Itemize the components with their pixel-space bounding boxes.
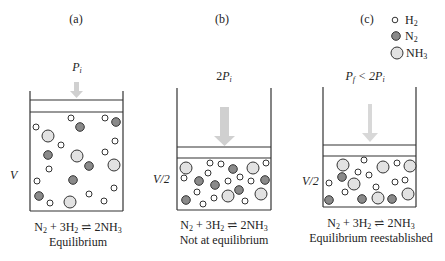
legend-markers	[391, 17, 403, 59]
volume-label-c: V/2	[302, 175, 319, 187]
volume-label-a: V	[10, 169, 17, 181]
particles-b	[180, 160, 269, 207]
n2-marker-icon	[392, 32, 401, 41]
panel-b-label: (b)	[215, 13, 229, 25]
equation-c: N2 + 3H2 ⇌ 2NH3	[327, 217, 415, 229]
caption-c: Equilibrium reestablished	[309, 232, 433, 244]
legend-n2-label: N2	[405, 30, 418, 42]
nh3-marker-icon	[391, 47, 403, 59]
equation-b: N2 + 3H2 ⇌ 2NH3	[180, 219, 268, 231]
caption-a: Equilibrium	[49, 236, 107, 248]
particles-a	[33, 115, 120, 208]
equation-a: N2 + 3H2 ⇌ 2NH3	[34, 221, 122, 233]
panel-a-label: (a)	[69, 13, 82, 25]
particles-c	[325, 157, 416, 204]
panel-c-label: (c)	[360, 13, 373, 25]
h2-marker-icon	[392, 17, 398, 23]
pressure-arrow-b	[214, 107, 235, 146]
pressure-label-a: Pi	[72, 61, 82, 73]
pressure-arrow-a	[70, 82, 83, 98]
legend-h2-label: H2	[405, 14, 418, 26]
legend-nh3-label: NH3	[406, 47, 427, 59]
pressure-label-c: Pf < 2Pi	[345, 70, 384, 82]
volume-label-b: V/2	[153, 173, 170, 185]
pressure-arrow-c	[362, 104, 378, 142]
caption-b: Not at equilibrium	[180, 234, 269, 246]
pressure-label-b: 2Pi	[216, 70, 232, 82]
